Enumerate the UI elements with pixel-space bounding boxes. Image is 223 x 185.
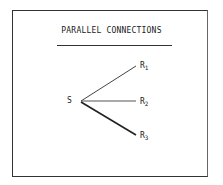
target-node-r3: R3	[140, 131, 148, 141]
edge-s-r3	[81, 102, 136, 135]
source-node-label: S	[67, 96, 72, 105]
diagram-lines	[0, 0, 223, 185]
edge-s-r1	[81, 66, 136, 101]
target-node-r2: R2	[140, 97, 148, 107]
target-node-r1: R1	[140, 61, 148, 71]
